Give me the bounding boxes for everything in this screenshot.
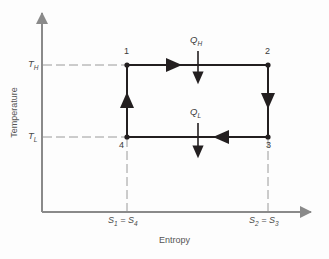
state-point-1 — [124, 62, 129, 67]
y-tick-label-TH-sub: H — [34, 64, 39, 71]
x-tick-label-S1S4-p4: 4 — [134, 220, 138, 227]
x-tick-label-S2S3-p4: 3 — [275, 220, 279, 227]
axis-lines — [42, 13, 311, 212]
heat-added-label: QH — [190, 35, 202, 47]
y-tick-label-TL: TL — [28, 131, 37, 143]
heat-rejected-label-sub: L — [197, 112, 201, 119]
x-axis-title: Entropy — [159, 236, 190, 245]
x-tick-label-S1S4: S1 = S4 — [108, 216, 138, 227]
state-label-1: 1 — [124, 47, 129, 56]
x-tick-label-S2S3-p2: = — [259, 215, 269, 225]
state-label-4: 4 — [119, 141, 124, 150]
state-point-3 — [265, 134, 270, 139]
diagram-canvas — [0, 0, 329, 259]
state-label-3: 3 — [266, 141, 271, 150]
carnot-cycle-figure: Temperature TH TL 1 2 3 4 QH QL S1 = S4 … — [0, 0, 329, 259]
x-tick-label-S2S3: S2 = S3 — [249, 216, 279, 227]
heat-added-label-sub: H — [197, 40, 202, 47]
state-point-4 — [124, 134, 129, 139]
y-axis-title: Temperature — [10, 78, 19, 148]
state-point-2 — [265, 62, 270, 67]
x-tick-label-S1S4-p2: = — [118, 215, 128, 225]
state-label-2: 2 — [265, 47, 270, 56]
y-tick-label-TL-sub: L — [34, 136, 38, 143]
y-tick-label-TH: TH — [28, 59, 39, 71]
heat-rejected-label: QL — [190, 107, 201, 119]
